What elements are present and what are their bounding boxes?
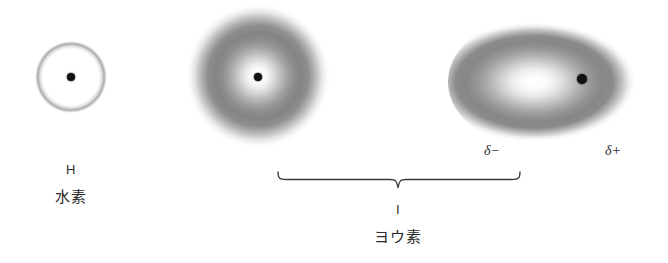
iodine-polarised-electron-cloud xyxy=(448,14,644,150)
iodine-symbol-label: I xyxy=(368,203,428,216)
partial-charge-negative-label: δ− xyxy=(472,144,512,158)
molecular-diagram: δ− δ+ H 水素 I ヨウ素 xyxy=(0,0,668,263)
hydrogen-nucleus xyxy=(67,73,75,81)
iodine-free-nucleus xyxy=(254,73,262,81)
hydrogen-symbol-label: H xyxy=(41,163,101,176)
iodine-name-label: ヨウ素 xyxy=(353,230,443,245)
iodine-polarised-nucleus xyxy=(577,74,587,84)
hydrogen-name-label: 水素 xyxy=(41,190,101,205)
iodine-group-brace xyxy=(270,168,530,194)
partial-charge-positive-label: δ+ xyxy=(593,144,633,158)
